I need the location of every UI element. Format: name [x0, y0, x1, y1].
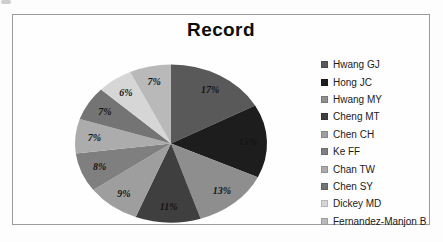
pie-percent-label: 6% [119, 87, 132, 98]
legend-item-chen-ch: Chen CH [321, 126, 426, 143]
legend-item-cheng-mt: Cheng MT [321, 108, 426, 125]
legend-marker-icon [321, 183, 328, 190]
legend-label: Chen SY [333, 181, 373, 192]
legend-marker-icon [321, 113, 328, 120]
pie-percent-label: 8% [93, 161, 106, 172]
legend-label: Chen CH [333, 129, 374, 140]
legend-item-dickey-md: Dickey MD [321, 195, 426, 212]
legend-item-chan-tw: Chan TW [321, 160, 426, 177]
legend-label: Hong JC [333, 77, 372, 88]
legend-item-fernandez-manjon-b: Fernandez-Manjon B [321, 213, 426, 230]
pie-percent-label: 7% [148, 76, 161, 87]
legend-item-ke-ff: Ke FF [321, 143, 426, 160]
legend-marker-icon [321, 200, 328, 207]
legend-marker-icon [321, 218, 328, 225]
legend-marker-icon [321, 96, 328, 103]
pie-percent-label: 17% [201, 84, 219, 95]
chart-screenshot: Record 17%15%13%11%9%8%7%7%6%7% Hwang GJ… [0, 0, 443, 242]
chart-area: Record 17%15%13%11%9%8%7%7%6%7% Hwang GJ… [12, 14, 430, 225]
legend-label: Hwang MY [333, 94, 382, 105]
legend-label: Dickey MD [333, 198, 381, 209]
legend-label: Chan TW [333, 164, 375, 175]
pie-percent-label: 13% [213, 185, 231, 196]
legend-label: Cheng MT [333, 111, 380, 122]
pie-percent-label: 15% [239, 136, 257, 147]
scan-artifact [1, 0, 11, 4]
legend-label: Ke FF [333, 146, 360, 157]
chart-legend: Hwang GJHong JCHwang MYCheng MTChen CHKe… [321, 56, 426, 230]
legend-marker-icon [321, 79, 328, 86]
legend-item-hwang-my: Hwang MY [321, 91, 426, 108]
pie-percent-label: 11% [160, 201, 178, 212]
legend-marker-icon [321, 166, 328, 173]
legend-item-hwang-gj: Hwang GJ [321, 56, 426, 73]
legend-marker-icon [321, 148, 328, 155]
legend-label: Fernandez-Manjon B [333, 216, 426, 227]
legend-item-chen-sy: Chen SY [321, 178, 426, 195]
legend-label: Hwang GJ [333, 59, 380, 70]
pie-percent-label: 7% [88, 132, 101, 143]
legend-marker-icon [321, 61, 328, 68]
pie-percent-label: 9% [117, 188, 130, 199]
legend-item-hong-jc: Hong JC [321, 73, 426, 90]
pie-percent-label: 7% [98, 106, 111, 117]
legend-marker-icon [321, 131, 328, 138]
